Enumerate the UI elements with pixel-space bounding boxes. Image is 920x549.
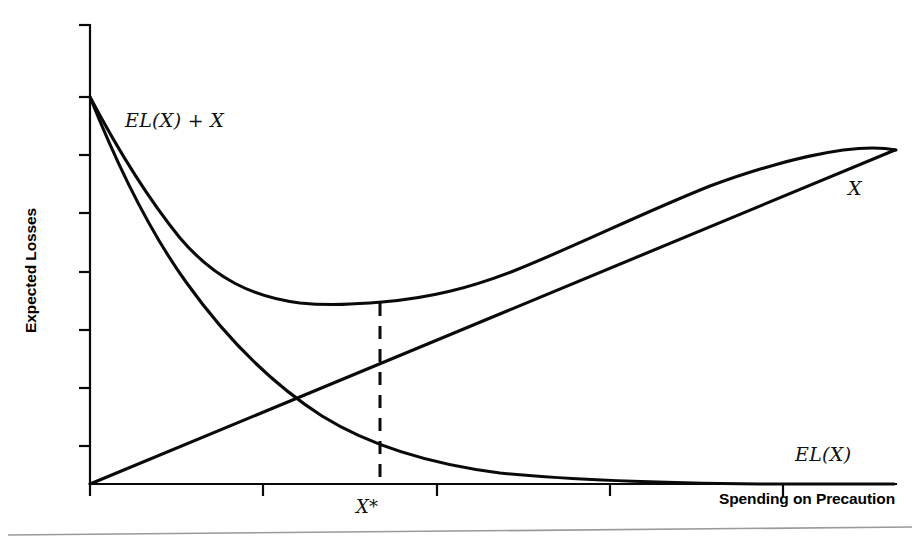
- footer-divider: [8, 527, 912, 535]
- precaution-spending-line: [90, 150, 895, 484]
- total-cost-label: EL(X) + X: [124, 109, 225, 131]
- figure-container: EL(X) + X X EL(X) X* Spending on Precaut…: [0, 0, 920, 549]
- y-axis-title: Expected Losses: [22, 208, 39, 333]
- axes-group: [90, 25, 896, 484]
- x-axis-title: Spending on Precaution: [719, 490, 895, 507]
- optimum-label: X*: [354, 496, 378, 517]
- expected-losses-chart: EL(X) + X X EL(X) X* Spending on Precaut…: [0, 0, 920, 549]
- x-axis-ticks: [90, 484, 783, 496]
- y-axis-ticks: [79, 25, 90, 446]
- expected-loss-label: EL(X): [794, 443, 851, 465]
- precaution-cost-label: X: [846, 177, 863, 199]
- expected-loss-curve: [90, 97, 894, 484]
